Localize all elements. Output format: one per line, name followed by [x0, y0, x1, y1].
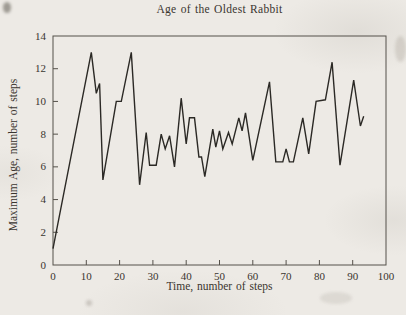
y-tick-label: 4 [41, 193, 47, 205]
oldest-rabbit-age-line [53, 52, 364, 248]
y-tick-label: 10 [35, 95, 47, 107]
y-axis-label: Maximum Age, number of steps [7, 79, 19, 232]
scanned-book-page: Age of the Oldest Rabbit 010203040506070… [0, 0, 406, 315]
rabbit-age-line-chart: 010203040506070809010002468101214 [0, 0, 406, 315]
y-tick-label: 14 [35, 30, 47, 42]
y-tick-label: 0 [41, 259, 47, 271]
x-axis-label: Time, number of steps [53, 280, 386, 292]
plot-border [53, 36, 386, 265]
y-tick-label: 8 [41, 128, 47, 140]
y-tick-label: 6 [41, 160, 47, 172]
y-tick-label: 2 [41, 226, 47, 238]
y-tick-label: 12 [35, 62, 46, 74]
